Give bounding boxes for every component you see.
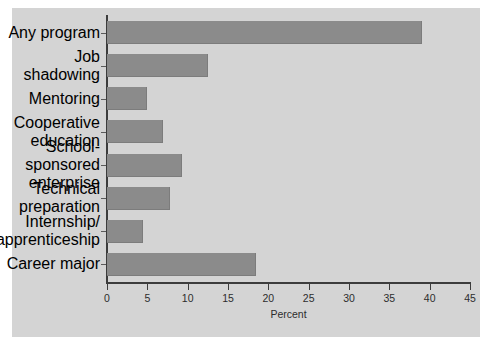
category-label: Mentoring bbox=[4, 82, 100, 115]
bar bbox=[107, 54, 208, 77]
category-label-line: Job shadowing bbox=[4, 48, 100, 84]
x-axis-tick bbox=[147, 284, 148, 290]
x-axis-line bbox=[106, 282, 471, 284]
category-label-line: Internship/ bbox=[0, 213, 100, 231]
x-axis-tick-label: 30 bbox=[329, 292, 369, 304]
bar-row bbox=[107, 149, 470, 182]
x-axis-tick-label: 40 bbox=[410, 292, 450, 304]
x-axis-tick-label: 45 bbox=[450, 292, 488, 304]
bar bbox=[107, 120, 163, 143]
bar bbox=[107, 21, 422, 44]
x-axis-tick-label: 10 bbox=[168, 292, 208, 304]
bar bbox=[107, 154, 182, 177]
bar bbox=[107, 253, 256, 276]
plot-area bbox=[107, 16, 470, 281]
bar-row bbox=[107, 115, 470, 148]
bar bbox=[107, 87, 147, 110]
category-label: Any program bbox=[4, 16, 100, 49]
y-axis-tick bbox=[101, 99, 106, 100]
bar bbox=[107, 220, 143, 243]
bar-row bbox=[107, 49, 470, 82]
x-axis-tick bbox=[268, 284, 269, 290]
y-axis-tick bbox=[101, 66, 106, 67]
y-axis-tick bbox=[101, 132, 106, 133]
category-label-line: Cooperative bbox=[14, 114, 100, 132]
x-axis-tick-label: 15 bbox=[208, 292, 248, 304]
bar-row bbox=[107, 82, 470, 115]
category-label: School-sponsoredenterprise bbox=[4, 149, 100, 182]
x-axis-tick-label: 20 bbox=[248, 292, 288, 304]
x-axis-title: Percent bbox=[107, 308, 470, 320]
bar-row bbox=[107, 248, 470, 281]
chart-figure: Any programJob shadowingMentoringCoopera… bbox=[0, 0, 488, 343]
x-axis-tick-label: 0 bbox=[87, 292, 127, 304]
x-axis-tick bbox=[309, 284, 310, 290]
bar-row bbox=[107, 215, 470, 248]
category-label: Internship/apprenticeship bbox=[4, 215, 100, 248]
x-axis-tick bbox=[107, 284, 108, 290]
y-axis-tick bbox=[101, 264, 106, 265]
x-axis-tick bbox=[349, 284, 350, 290]
category-label: Career major bbox=[4, 248, 100, 281]
x-axis-tick bbox=[228, 284, 229, 290]
x-axis-tick bbox=[470, 284, 471, 290]
category-label-line: School-sponsored bbox=[4, 138, 100, 174]
x-axis-tick-label: 5 bbox=[127, 292, 167, 304]
y-axis-tick bbox=[101, 231, 106, 232]
category-label-line: Career major bbox=[7, 255, 100, 273]
category-label-line: Any program bbox=[8, 24, 100, 42]
x-axis-tick bbox=[430, 284, 431, 290]
y-axis-tick bbox=[101, 33, 106, 34]
category-label: Technicalpreparation bbox=[4, 182, 100, 215]
bar-row bbox=[107, 16, 470, 49]
x-axis-tick-label: 25 bbox=[289, 292, 329, 304]
y-axis-tick bbox=[101, 165, 106, 166]
x-axis-tick-label: 35 bbox=[369, 292, 409, 304]
x-axis-tick bbox=[188, 284, 189, 290]
x-axis-tick bbox=[389, 284, 390, 290]
bar-row bbox=[107, 182, 470, 215]
category-axis-labels: Any programJob shadowingMentoringCoopera… bbox=[4, 16, 102, 281]
category-label-line: Mentoring bbox=[29, 90, 100, 108]
category-label-line: apprenticeship bbox=[0, 231, 100, 249]
bar bbox=[107, 187, 170, 210]
y-axis-tick bbox=[101, 198, 106, 199]
category-label-line: Technical bbox=[19, 180, 100, 198]
category-label: Job shadowing bbox=[4, 49, 100, 82]
